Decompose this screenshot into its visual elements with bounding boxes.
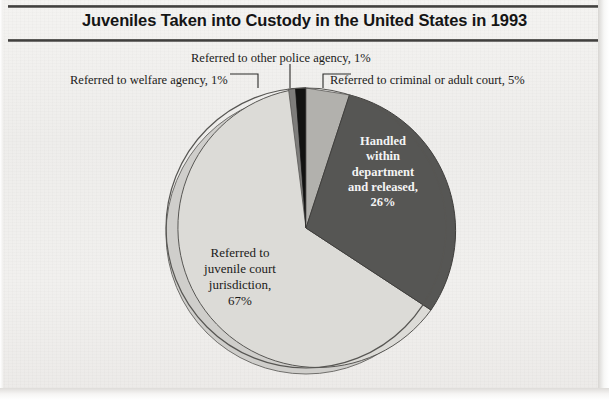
page-title: Juveniles Taken into Custody in the Unit… (0, 11, 609, 30)
pie-chart: Referred to other police agency, 1% Refe… (0, 42, 598, 388)
slice-label-value: 67% (160, 293, 320, 309)
frame-edge-right (598, 0, 609, 400)
leader-line-welfare-agency (230, 74, 258, 88)
slice-label-line: juvenile court (160, 261, 320, 277)
slice-label-referred-juvenile-court: Referred to juvenile court jurisdiction,… (160, 245, 320, 308)
callout-label-other-police-agency: Referred to other police agency, 1% (191, 51, 371, 65)
figure-page: Juveniles Taken into Custody in the Unit… (0, 0, 609, 400)
slice-label-line: Referred to (160, 245, 320, 261)
callout-label-welfare-agency: Referred to welfare agency, 1% (70, 73, 228, 87)
frame-edge-bottom (0, 388, 609, 400)
title-rule-top (8, 5, 598, 8)
slice-label-value: 26% (318, 195, 448, 210)
slice-label-handled-within-department: Handled within department and released, … (318, 134, 448, 210)
slice-label-line: department (318, 165, 448, 180)
pie-chart-svg (0, 42, 598, 388)
slice-label-line: within (318, 149, 448, 164)
callout-label-criminal-adult-court: Referred to criminal or adult court, 5% (330, 73, 525, 87)
slice-label-line: Handled (318, 134, 448, 149)
slice-label-line: and released, (318, 180, 448, 195)
slice-label-line: jurisdiction, (160, 277, 320, 293)
